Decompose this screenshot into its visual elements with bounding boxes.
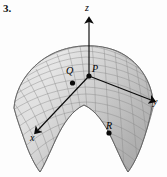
point-Q-dot	[70, 80, 75, 85]
point-R-dot	[106, 130, 111, 135]
point-Q-label: Q	[66, 66, 73, 76]
surface-diagram	[0, 0, 167, 177]
saddle-surface	[10, 43, 165, 177]
y-axis-label: y	[153, 97, 157, 107]
point-P-label: P	[92, 64, 98, 74]
x-axis-label: x	[30, 133, 34, 143]
figure-container: 3.	[0, 0, 167, 177]
point-R-label: R	[106, 121, 112, 131]
z-axis-label: z	[85, 3, 89, 13]
point-P-dot	[86, 73, 91, 78]
